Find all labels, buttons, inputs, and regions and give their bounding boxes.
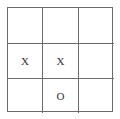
tic-tac-toe-board: X X O [7,7,113,112]
cell-r2-c1[interactable]: X [8,44,43,79]
cell-r3-c3[interactable] [79,79,114,113]
cell-r1-c1[interactable] [8,8,43,44]
cell-r1-c3[interactable] [79,8,114,44]
cell-r3-c2[interactable]: O [43,79,79,113]
cell-r2-c3[interactable] [79,44,114,79]
cell-r2-c2[interactable]: X [43,44,79,79]
cell-r3-c1[interactable] [8,79,43,113]
cell-r1-c2[interactable] [43,8,79,44]
